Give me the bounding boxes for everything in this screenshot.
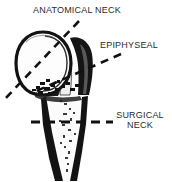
anatomical-diagram: ANATOMICAL NECK EPIPHYSEAL SURGICAL NECK [0,0,172,182]
label-epiphyseal: EPIPHYSEAL [100,40,158,50]
label-surgical-neck: SURGICAL NECK [112,110,168,130]
humerus-bone-group [16,32,93,181]
label-surgical-neck-line1: SURGICAL [116,110,164,120]
label-anatomical-neck: ANATOMICAL NECK [33,5,121,15]
label-surgical-neck-line2: NECK [112,120,168,130]
bone-illustration [0,0,172,182]
